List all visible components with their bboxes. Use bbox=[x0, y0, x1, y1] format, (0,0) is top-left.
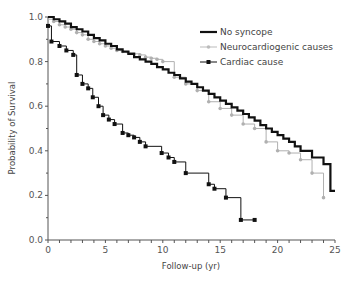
legend-label: Neurocardiogenic causes bbox=[220, 42, 333, 52]
data-point bbox=[75, 73, 79, 77]
data-point bbox=[58, 23, 62, 27]
data-point bbox=[241, 122, 245, 126]
square-marker-icon bbox=[207, 60, 211, 64]
x-tick-label: 0 bbox=[45, 245, 51, 255]
data-point bbox=[121, 131, 125, 135]
data-point bbox=[92, 40, 96, 44]
y-tick-label: 0.0 bbox=[29, 235, 44, 245]
legend-label: Cardiac cause bbox=[220, 57, 284, 67]
data-point bbox=[230, 113, 234, 117]
y-axis-label: Probability of Survival bbox=[7, 82, 17, 175]
x-tick-label: 20 bbox=[272, 245, 284, 255]
data-point bbox=[155, 58, 159, 62]
y-axis: 0.00.20.40.60.81.0 bbox=[29, 12, 48, 245]
data-point bbox=[167, 155, 171, 159]
data-point bbox=[172, 160, 176, 164]
data-point bbox=[239, 218, 243, 222]
y-tick-label: 0.8 bbox=[29, 57, 44, 67]
survival-chart: 0.00.20.40.60.81.0 0510152025 Follow-up … bbox=[0, 0, 354, 285]
data-point bbox=[64, 48, 68, 52]
data-point bbox=[287, 151, 291, 155]
data-point bbox=[91, 95, 95, 99]
x-axis: 0510152025 bbox=[45, 240, 341, 255]
data-point bbox=[132, 135, 136, 139]
y-tick-label: 1.0 bbox=[29, 12, 44, 22]
y-tick-label: 0.2 bbox=[29, 190, 43, 200]
x-tick-label: 15 bbox=[214, 245, 225, 255]
data-point bbox=[57, 44, 61, 48]
data-point bbox=[207, 182, 211, 186]
legend: No syncope Neurocardiogenic causes Cardi… bbox=[200, 27, 333, 67]
data-point bbox=[63, 25, 67, 29]
y-tick-label: 0.6 bbox=[29, 101, 44, 111]
series-cardiac-cause bbox=[46, 24, 257, 222]
data-point bbox=[276, 149, 280, 153]
data-point bbox=[101, 113, 105, 117]
data-point bbox=[212, 187, 216, 191]
data-point bbox=[299, 158, 303, 162]
data-point bbox=[150, 56, 154, 60]
data-point bbox=[310, 171, 314, 175]
legend-item-no-syncope: No syncope bbox=[200, 27, 273, 37]
data-point bbox=[81, 33, 85, 37]
y-tick-label: 0.4 bbox=[29, 146, 44, 156]
circle-marker-icon bbox=[207, 45, 211, 49]
data-point bbox=[195, 89, 199, 93]
data-point bbox=[144, 144, 148, 148]
data-point bbox=[113, 122, 117, 126]
data-point bbox=[86, 38, 90, 42]
data-point bbox=[46, 24, 50, 28]
data-point bbox=[264, 140, 268, 144]
data-point bbox=[160, 151, 164, 155]
data-point bbox=[253, 127, 257, 131]
data-point bbox=[184, 171, 188, 175]
data-point bbox=[86, 86, 90, 90]
data-point bbox=[138, 140, 142, 144]
data-point bbox=[97, 104, 101, 108]
data-point bbox=[71, 53, 75, 57]
data-point bbox=[107, 118, 111, 122]
legend-item-cardiac: Cardiac cause bbox=[200, 57, 284, 67]
data-point bbox=[49, 40, 53, 44]
legend-label: No syncope bbox=[220, 27, 273, 37]
x-tick-label: 10 bbox=[157, 245, 169, 255]
data-point bbox=[75, 31, 79, 35]
data-point bbox=[126, 133, 130, 137]
data-point bbox=[322, 196, 326, 200]
data-point bbox=[224, 196, 228, 200]
legend-item-neurocardiogenic: Neurocardiogenic causes bbox=[200, 42, 333, 52]
data-point bbox=[207, 100, 211, 104]
data-point bbox=[253, 218, 257, 222]
data-point bbox=[218, 107, 222, 111]
data-point bbox=[98, 42, 102, 46]
data-point bbox=[161, 60, 165, 64]
x-tick-label: 25 bbox=[329, 245, 340, 255]
x-axis-label: Follow-up (yr) bbox=[162, 261, 220, 271]
data-point bbox=[80, 82, 84, 86]
x-tick-label: 5 bbox=[103, 245, 109, 255]
